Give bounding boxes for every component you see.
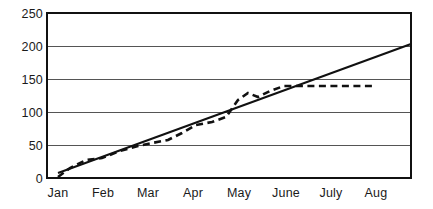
x-tick-label-july: July xyxy=(319,186,343,200)
x-tick-label-mar: Mar xyxy=(137,186,159,200)
y-tick-label-50: 50 xyxy=(29,139,43,153)
x-axis-ticks: Jan Feb Mar Apr May June July Aug xyxy=(48,186,388,200)
x-tick-label-apr: Apr xyxy=(183,186,203,200)
y-axis-ticks: 250 200 150 100 50 0 xyxy=(22,7,43,186)
x-tick-label-feb: Feb xyxy=(92,186,114,200)
y-tick-label-250: 250 xyxy=(22,7,43,21)
y-tick-label-200: 200 xyxy=(22,40,43,54)
chart-canvas: 250 200 150 100 50 0 Jan Feb Mar Apr May… xyxy=(0,0,433,209)
x-tick-label-june: June xyxy=(272,186,300,200)
plot-background xyxy=(47,13,411,178)
y-tick-label-100: 100 xyxy=(22,106,43,120)
y-tick-label-0: 0 xyxy=(36,172,43,186)
y-tick-label-150: 150 xyxy=(22,73,43,87)
line-chart: 250 200 150 100 50 0 Jan Feb Mar Apr May… xyxy=(0,0,433,209)
x-tick-label-jan: Jan xyxy=(48,186,69,200)
x-tick-label-may: May xyxy=(227,186,252,200)
x-tick-label-aug: Aug xyxy=(365,186,388,200)
